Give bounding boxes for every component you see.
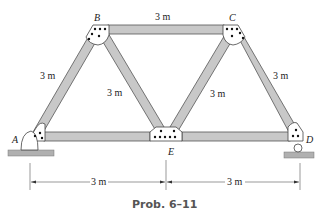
figure-caption: Prob. 6–11	[132, 198, 197, 211]
node-label-c: C	[229, 12, 236, 23]
rivets	[34, 28, 299, 139]
node-label-d: D	[305, 134, 314, 145]
node-label-a: A	[11, 134, 19, 145]
member-ed	[182, 132, 290, 141]
truss-diagram: A B C D E 3 m 3 m 3 m 3 m 3 m 3 m 3 m Pr…	[0, 0, 322, 214]
length-label-cd: 3 m	[273, 70, 289, 81]
ground-support-d	[284, 152, 314, 158]
member-ae	[44, 132, 150, 141]
length-label-be: 3 m	[107, 87, 123, 98]
length-label-bc: 3 m	[155, 11, 171, 22]
dimension-label-ae: 3 m	[91, 176, 107, 187]
roller-support-d	[294, 144, 302, 152]
node-label-e: E	[167, 146, 174, 157]
length-label-ab: 3 m	[40, 70, 56, 81]
member-ce	[167, 33, 234, 136]
dimension-label-ed: 3 m	[227, 176, 243, 187]
dimension-lines	[30, 160, 300, 190]
length-label-ce: 3 m	[210, 88, 226, 99]
member-bc	[108, 25, 224, 34]
member-be	[100, 33, 167, 136]
members	[33, 25, 299, 141]
gusset-e	[150, 127, 182, 141]
member-cd	[236, 33, 299, 136]
gusset-d	[288, 123, 303, 142]
ground-support-a	[8, 150, 54, 156]
node-label-b: B	[94, 12, 100, 23]
member-ab	[33, 34, 98, 136]
